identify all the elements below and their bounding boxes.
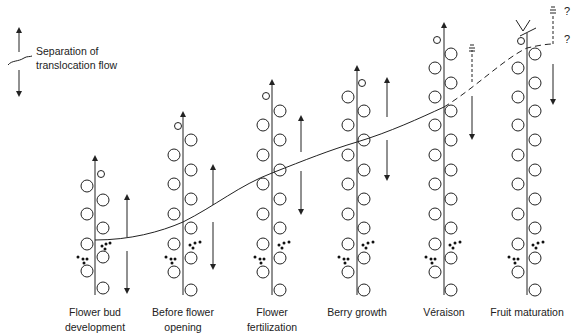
legend-label: Separation of translocation flow <box>36 44 117 72</box>
legend-line-2: translocation flow <box>36 58 117 72</box>
stage-label-veraison: Véraison <box>399 305 489 320</box>
legend-symbol <box>8 30 32 94</box>
flow-arrows-5 <box>469 45 475 137</box>
stage-label-before-flower: Before floweropening <box>138 305 228 335</box>
stage-label-flower-fertilization: Flowerfertilization <box>227 305 317 335</box>
stem-before-flower <box>168 114 197 296</box>
stage-label-flower-bud: Flower buddevelopment <box>50 305 140 335</box>
stage-label-berry-growth: Berry growth <box>312 305 402 320</box>
flow-arrows-6 <box>550 7 556 102</box>
question-mark-bottom: ? <box>564 33 570 45</box>
stem-veraison <box>429 25 457 296</box>
legend-line-1: Separation of <box>36 44 117 58</box>
stage-label-fruit-maturation: Fruit maturation <box>482 305 572 320</box>
stem-fruit-maturation <box>512 20 541 296</box>
stem-berry-growth <box>342 68 370 296</box>
stem-flower-bud <box>81 158 109 295</box>
separation-curve <box>95 107 444 240</box>
question-mark-top: ? <box>564 5 570 17</box>
